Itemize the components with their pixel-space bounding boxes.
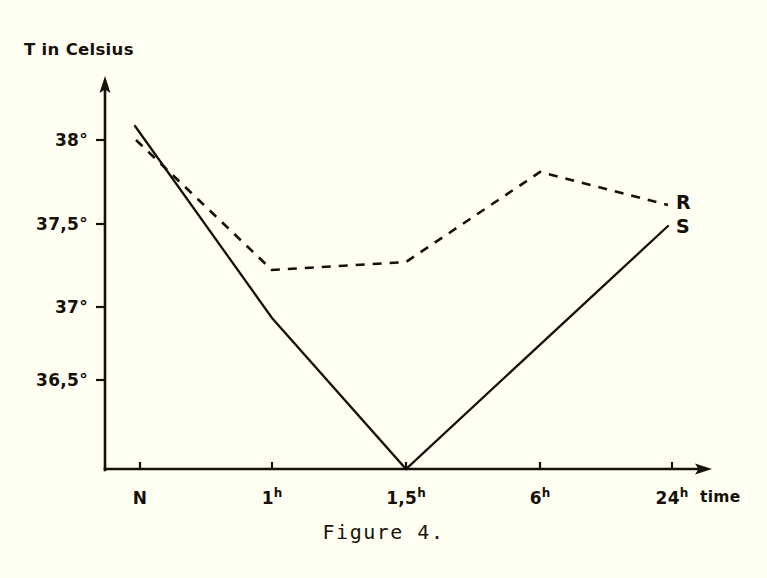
- series-line-r: [136, 140, 668, 270]
- x-axis-tick-label-6h: 6h: [530, 486, 551, 508]
- x-axis-tick-label-1-5h: 1,5h: [386, 486, 426, 508]
- x-axis-tick-label-1h: 1h: [262, 486, 283, 508]
- figure-caption: Figure 4.: [0, 520, 767, 544]
- y-axis-tick-label-37: 37°: [28, 297, 88, 317]
- y-axis-tick-label-36-5: 36,5°: [16, 370, 88, 390]
- chart-plot-area: [0, 0, 767, 578]
- series-line-s: [135, 126, 668, 469]
- y-axis-title: T in Celsius: [24, 40, 134, 59]
- x-tick-6h-base: 6: [530, 488, 542, 508]
- y-axis-tick-label-37-5: 37,5°: [16, 214, 88, 234]
- y-axis-group: [100, 76, 111, 470]
- x-tick-24h-sup: h: [680, 486, 689, 500]
- series-label-r: R: [676, 191, 691, 213]
- x-tick-1h-sup: h: [274, 486, 283, 500]
- figure-container: T in Celsius 38° 37,5° 37° 36,5° N 1h 1,…: [0, 0, 767, 578]
- x-tick-1h-base: 1: [262, 488, 274, 508]
- x-tick-1-5h-base: 1,5: [386, 488, 417, 508]
- series-label-s: S: [676, 215, 690, 237]
- x-tick-n-base: N: [133, 488, 148, 508]
- x-tick-1-5h-sup: h: [417, 486, 426, 500]
- x-tick-24h-base: 24: [656, 488, 680, 508]
- x-axis-tick-label-n: N: [133, 486, 148, 508]
- x-axis-title: time: [700, 488, 741, 506]
- y-axis-tick-label-38: 38°: [28, 130, 88, 150]
- x-tick-6h-sup: h: [542, 486, 551, 500]
- x-axis-tick-label-24h: 24h: [656, 486, 689, 508]
